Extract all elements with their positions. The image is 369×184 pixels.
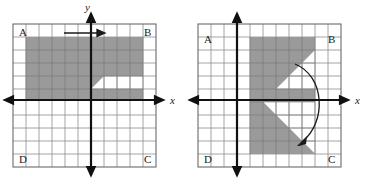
- corner-label-c: C: [328, 153, 335, 165]
- corner-label-d: D: [19, 153, 27, 165]
- shaded-z-shape-left: [26, 37, 143, 100]
- rotation-figure: A B C D x: [185, 0, 369, 184]
- corner-label-b: B: [328, 33, 335, 45]
- corner-label-a: A: [19, 26, 27, 38]
- corner-label-c: C: [144, 153, 151, 165]
- corner-label-b: B: [144, 26, 151, 38]
- figure-pair-container: A B C D x y: [0, 0, 369, 184]
- translation-figure: A B C D x y: [0, 0, 184, 184]
- x-axis-label: x: [354, 94, 360, 106]
- y-axis-label: y: [84, 1, 90, 13]
- corner-label-a: A: [204, 33, 212, 45]
- corner-label-d: D: [204, 153, 212, 165]
- x-axis-label: x: [169, 94, 175, 106]
